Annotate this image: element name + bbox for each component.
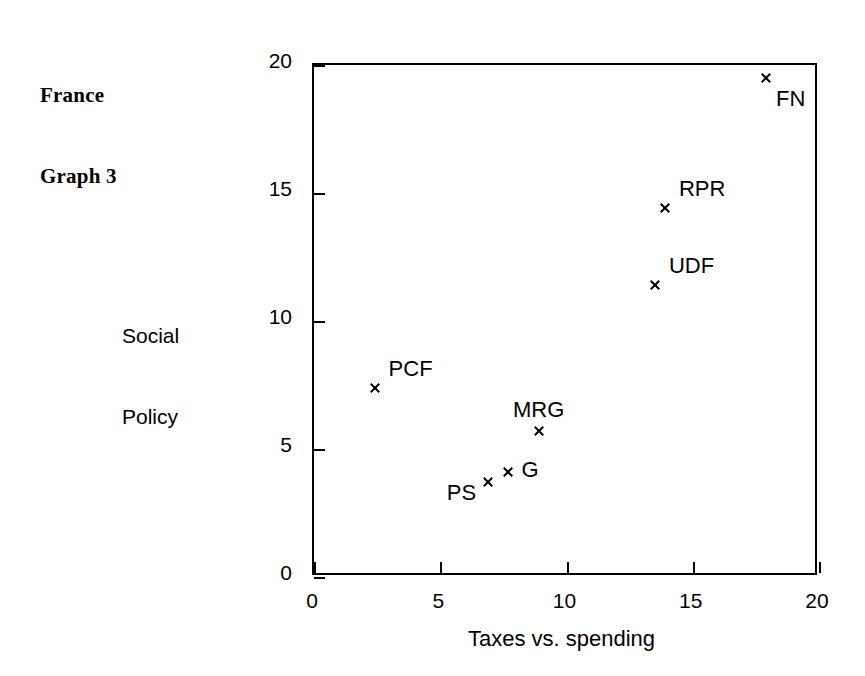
y-axis-title-line-1: Social: [122, 322, 179, 349]
data-point-label: FN: [776, 88, 805, 110]
x-tick-label: 10: [525, 589, 605, 613]
y-axis-title: Social Policy: [122, 268, 179, 484]
y-tick-label: 5: [230, 433, 292, 457]
data-point-label: MRG: [479, 399, 599, 421]
x-tick-mark: [314, 562, 316, 573]
x-axis-title: Taxes vs. spending: [0, 626, 865, 652]
figure-title-line-1: France: [40, 82, 117, 109]
x-tick-label: 15: [651, 589, 731, 613]
y-tick-mark: [314, 449, 325, 451]
data-point-label: PCF: [389, 358, 433, 380]
y-tick-label: 10: [230, 305, 292, 329]
data-point-label: PS: [314, 482, 476, 504]
scatter-plot-figure: France Graph 3 Social Policy Taxes vs. s…: [0, 0, 865, 676]
x-tick-label: 20: [777, 589, 857, 613]
x-tick-label: 5: [398, 589, 478, 613]
x-tick-mark: [819, 562, 821, 573]
y-tick-label: 20: [230, 49, 292, 73]
y-tick-label: 0: [230, 561, 292, 585]
y-tick-mark: [314, 193, 325, 195]
x-tick-label: 0: [272, 589, 352, 613]
x-tick-mark: [567, 562, 569, 573]
y-tick-mark: [314, 577, 325, 579]
y-axis-title-line-2: Policy: [122, 403, 179, 430]
x-tick-mark: [693, 562, 695, 573]
data-point-label: RPR: [679, 178, 725, 200]
figure-title: France Graph 3: [40, 28, 117, 244]
x-tick-mark: [440, 562, 442, 573]
y-tick-mark: [314, 321, 325, 323]
y-tick-label: 15: [230, 177, 292, 201]
plot-area: FNRPRUDFPCFMRGGPS: [312, 63, 817, 575]
data-point-label: G: [521, 459, 538, 481]
x-axis-title-text: Taxes vs. spending: [468, 626, 655, 651]
y-tick-mark: [314, 65, 325, 67]
data-point-label: UDF: [669, 255, 714, 277]
figure-title-line-2: Graph 3: [40, 163, 117, 190]
